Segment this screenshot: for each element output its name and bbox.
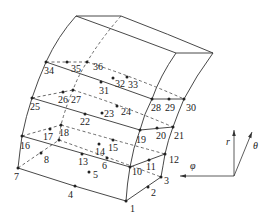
- node-label-21: 21: [174, 130, 184, 141]
- node-label-15: 15: [108, 142, 118, 153]
- solid-edges: [18, 16, 213, 201]
- node-point-1: [125, 200, 128, 203]
- node-point-29: [168, 98, 171, 101]
- r-arrowhead-icon: [232, 130, 236, 136]
- node-point-36: [86, 61, 89, 64]
- node-point-3: [160, 176, 163, 179]
- node-label-35: 35: [71, 63, 81, 74]
- node-label-7: 7: [14, 171, 19, 182]
- coordinate-axes: r θ φ: [180, 130, 258, 178]
- node-point-19: [139, 129, 142, 132]
- node-label-19: 19: [136, 134, 146, 145]
- node-point-27: [72, 89, 75, 92]
- node-label-22: 22: [80, 116, 90, 127]
- node-label-36: 36: [93, 61, 103, 72]
- node-label-18: 18: [59, 127, 69, 138]
- node-label-14: 14: [95, 146, 105, 157]
- top-front-edge: [76, 16, 176, 53]
- node-point-8: [40, 152, 43, 155]
- node-label-3: 3: [164, 175, 169, 186]
- node-label-11: 11: [146, 161, 156, 172]
- node-point-2: [147, 186, 150, 189]
- node-label-27: 27: [71, 94, 81, 105]
- node-point-28: [151, 98, 154, 101]
- node-point-34: [45, 61, 48, 64]
- node-label-1: 1: [130, 203, 135, 214]
- node-point-9: [58, 139, 61, 142]
- node-label-24: 24: [121, 106, 131, 117]
- node-label-26: 26: [58, 94, 68, 105]
- theta-axis-label: θ: [253, 140, 258, 151]
- node-point-12: [164, 153, 167, 156]
- node-point-24: [116, 105, 119, 108]
- node-label-25: 25: [30, 101, 40, 112]
- node-point-4: [74, 185, 77, 188]
- node-point-16: [21, 135, 24, 138]
- theta-arrowhead-icon: [248, 132, 252, 138]
- node-label-31: 31: [99, 85, 109, 96]
- node-label-34: 34: [44, 65, 54, 76]
- node-label-29: 29: [165, 102, 175, 113]
- node-point-30: [183, 98, 186, 101]
- node-point-25: [31, 97, 34, 100]
- node-label-20: 20: [156, 130, 166, 141]
- theta-axis-arrow: [234, 132, 252, 176]
- node-label-2: 2: [151, 187, 156, 198]
- phi-arrowhead-icon: [180, 174, 186, 178]
- node-label-10: 10: [132, 166, 142, 177]
- node-label-4: 4: [68, 189, 73, 200]
- node-point-21: [172, 126, 175, 129]
- node-label-33: 33: [128, 79, 138, 90]
- node-label-16: 16: [20, 140, 30, 151]
- node-label-8: 8: [44, 154, 49, 165]
- node-point-7: [17, 167, 20, 170]
- node-point-5: [88, 171, 91, 174]
- node-label-32: 32: [115, 78, 125, 89]
- node-label-23: 23: [104, 108, 114, 119]
- node-point-35: [66, 61, 69, 64]
- node-label-28: 28: [151, 102, 161, 113]
- phi-axis-label: φ: [190, 160, 196, 171]
- top-back-edge: [121, 16, 213, 53]
- node-label-5: 5: [93, 169, 98, 180]
- node-label-17: 17: [43, 131, 53, 142]
- curved-element-diagram: 1234567810111213141516171819202122232425…: [0, 0, 271, 221]
- r-axis-label: r: [226, 136, 230, 147]
- node-label-13: 13: [78, 156, 88, 167]
- node-label-30: 30: [186, 102, 196, 113]
- hidden-16-18: [22, 125, 61, 136]
- node-point-31: [100, 81, 103, 84]
- node-label-12: 12: [169, 154, 179, 165]
- node-label-6: 6: [102, 160, 107, 171]
